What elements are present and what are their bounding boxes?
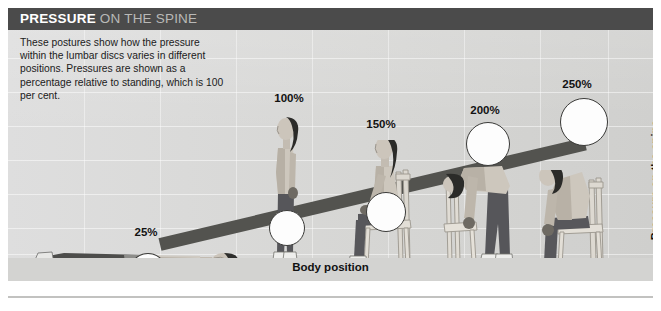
chart-plot-area: These postures show how the pressure wit… xyxy=(8,30,653,258)
pressure-marker-150 xyxy=(366,192,406,232)
figure-group-sitting-bent-forward: 250% xyxy=(536,78,622,258)
figure-label-100: 100% xyxy=(264,92,314,104)
person-lying-down-icon xyxy=(28,240,243,258)
figure-group-sitting-upright: 150% xyxy=(346,118,432,258)
figure-group-lying: 25% xyxy=(28,226,243,258)
pressure-marker-200 xyxy=(466,122,510,166)
page-title: PRESSURE ON THE SPINE xyxy=(20,11,197,26)
figure-group-bent-forward: 200% xyxy=(440,104,534,258)
title-light: ON THE SPINE xyxy=(96,11,197,26)
intro-paragraph: These postures show how the pressure wit… xyxy=(20,36,225,102)
person-sitting-bent-forward-icon xyxy=(536,170,622,258)
figure-label-250: 250% xyxy=(550,78,604,90)
infographic-panel: PRESSURE ON THE SPINE These posture xyxy=(8,8,653,281)
y-axis-label: Pressure on the spine xyxy=(649,120,653,240)
figure-group-standing: 100% xyxy=(260,92,314,258)
figure-label-200: 200% xyxy=(458,104,512,116)
title-bar: PRESSURE ON THE SPINE xyxy=(8,8,653,30)
bottom-rule xyxy=(8,296,653,298)
infographic-root: PRESSURE ON THE SPINE These posture xyxy=(0,0,661,311)
x-axis-label: Body position xyxy=(8,261,653,273)
figure-label-150: 150% xyxy=(356,118,406,130)
title-strong: PRESSURE xyxy=(20,11,96,26)
pressure-marker-250 xyxy=(560,98,608,146)
figure-label-25: 25% xyxy=(124,226,168,238)
pressure-marker-100 xyxy=(269,210,305,246)
